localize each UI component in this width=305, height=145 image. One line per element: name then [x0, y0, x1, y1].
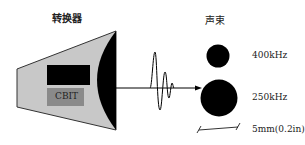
scale-tick-right — [236, 123, 240, 130]
element-block — [47, 65, 90, 85]
beam-spot-400khz — [207, 45, 230, 68]
scale-bar — [199, 127, 238, 130]
arrow-head-icon — [195, 86, 202, 91]
scale-label: 5mm(0.2in) — [252, 124, 305, 134]
transducer-beam-diagram: 转换器 声束 CBIT 400kHz 250kHz 5mm(0.2in) — [0, 0, 305, 145]
cbit-label: CBIT — [55, 91, 78, 101]
freq-250-label: 250kHz — [252, 92, 287, 102]
transducer-label: 转换器 — [52, 10, 82, 25]
freq-400-label: 400kHz — [252, 50, 287, 60]
beam-label: 声束 — [205, 12, 225, 27]
pulse-waveform — [150, 52, 174, 110]
beam-spot-250khz — [201, 80, 238, 117]
